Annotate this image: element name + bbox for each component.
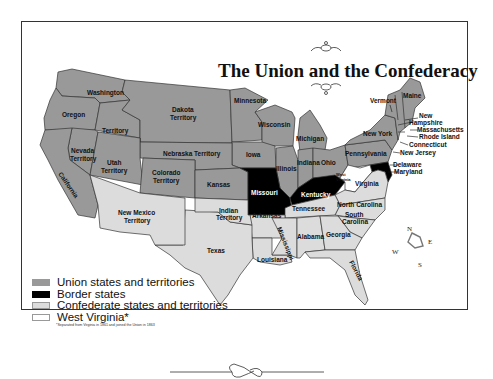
label-nevada: Nevada <box>71 147 95 154</box>
label-new-mexico: New Mexico <box>118 209 155 216</box>
legend: Union states and territories Border stat… <box>32 277 228 323</box>
label-virginia: Virginia <box>355 180 379 188</box>
map-title: The Union and the Confederacy <box>218 60 478 82</box>
label-utah: Utah <box>107 159 121 166</box>
label-washington: Washington <box>87 89 124 97</box>
legend-label: West Virginia* <box>57 312 129 323</box>
label-nebraska: Nebraska Territory <box>163 150 221 158</box>
svg-text:N: N <box>407 225 412 233</box>
label-indian: Indian <box>219 207 238 214</box>
label-louisiana: Louisiana <box>257 256 288 263</box>
legend-label: Union states and territories <box>57 277 194 288</box>
svg-text:W: W <box>392 248 399 256</box>
legend-label: Confederate states and territories <box>57 300 228 311</box>
label-iowa: Iowa <box>246 151 261 158</box>
ornament-under-title-icon <box>311 84 341 95</box>
label-colorado: Colorado <box>152 169 181 176</box>
label-delaware: Delaware <box>393 161 422 168</box>
label-connecticut: Connecticut <box>409 141 447 148</box>
label-kentucky: Kentucky <box>301 191 331 199</box>
label-ohio: Ohio <box>321 159 336 166</box>
label-illinois: Illinois <box>276 165 297 172</box>
label-tennessee: Tennessee <box>292 205 326 212</box>
legend-item-union: Union states and territories <box>32 277 228 289</box>
label-alabama: Alabama <box>297 233 324 240</box>
label-south: South <box>345 211 363 218</box>
ornament-top-icon <box>311 42 341 52</box>
label-michigan: Michigan <box>296 135 324 143</box>
label-indiana: Indiana <box>297 159 320 166</box>
swatch-confederate <box>32 302 50 309</box>
label-nevada-territory: Territory <box>70 155 97 163</box>
ornament-bottom-icon <box>170 364 324 377</box>
label-new-mexico-territory: Territory <box>124 217 151 225</box>
label-new: New <box>419 112 433 119</box>
label-wisconsin: Wisconsin <box>258 121 290 128</box>
svg-text:E: E <box>428 238 432 246</box>
label-utah-territory: Territory <box>101 167 128 175</box>
label-new-jersey: New Jersey <box>400 149 436 157</box>
label-north-carolina: North Carolina <box>337 201 383 208</box>
label-west-virginia: Virginia <box>336 177 351 182</box>
svg-text:S: S <box>418 261 422 269</box>
label-rhode-island: Rhode Island <box>419 133 460 140</box>
label-new-york: New York <box>363 130 392 137</box>
swatch-border <box>32 291 50 298</box>
label-vermont: Vermont <box>370 97 397 104</box>
label-massachusetts: Massachusetts <box>417 126 464 133</box>
label-minnesota: Minnesota <box>234 97 267 104</box>
region-michigan <box>298 110 327 152</box>
legend-label: Border states <box>57 289 125 300</box>
label-kansas: Kansas <box>207 181 231 188</box>
footnote: *Separated from Virginia in 1861 and joi… <box>56 323 155 327</box>
compass-rose-icon: N E S W <box>392 225 432 269</box>
label-indian-territory: Territory <box>216 214 243 222</box>
legend-item-confederate: Confederate states and territories <box>32 300 228 312</box>
label-arkansas: Arkansas <box>252 212 282 219</box>
legend-item-west-virginia: West Virginia* <box>32 312 228 324</box>
label-pennsylvania: Pennsylvania <box>345 150 387 158</box>
label-maine: Maine <box>403 92 422 99</box>
label-missouri: Missouri <box>251 189 278 196</box>
label-carolina: Carolina <box>342 218 368 225</box>
label-dakota-territory: Territory <box>170 114 197 122</box>
label-idaho-territory: Territory <box>102 127 129 135</box>
label-texas: Texas <box>207 247 225 254</box>
label-georgia: Georgia <box>326 231 351 239</box>
swatch-west-virginia <box>32 314 50 321</box>
swatch-union <box>32 279 50 286</box>
label-colorado-territory: Territory <box>153 177 180 185</box>
label-oregon: Oregon <box>62 111 85 119</box>
label-maryland: Maryland <box>394 168 423 176</box>
label-dakota: Dakota <box>172 106 194 113</box>
